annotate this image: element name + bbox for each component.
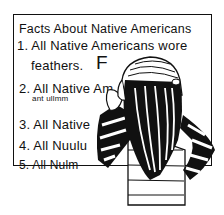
girl-figure (0, 0, 224, 215)
illustration: Facts About Native Americans 1. All Nati… (0, 0, 224, 215)
